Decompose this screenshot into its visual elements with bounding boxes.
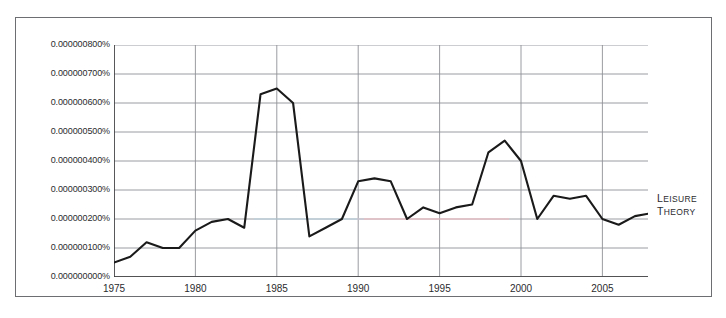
data-line-leisure-theory [114, 89, 648, 263]
x-axis-tick-label: 2000 [501, 283, 541, 294]
y-axis-tick-label: 0.000000300% [18, 184, 110, 194]
y-axis-tick-label: 0.000000500% [18, 126, 110, 136]
y-axis-tick-label: 0.000000000% [18, 271, 110, 281]
y-axis-tick-label: 0.000000400% [18, 155, 110, 165]
y-axis-tick-label: 0.000000200% [18, 213, 110, 223]
y-axis-tick-label: 0.000000800% [18, 39, 110, 49]
x-axis-tick-label: 1990 [338, 283, 378, 294]
series-label-leisure-theory: LEISURE THEORY [657, 193, 697, 218]
x-axis-tick-label: 1980 [175, 283, 215, 294]
x-axis-tick-label: 1985 [257, 283, 297, 294]
y-axis-tick-label: 0.000000700% [18, 68, 110, 78]
y-axis-tick-label: 0.000000600% [18, 97, 110, 107]
x-axis-tick-label: 1975 [94, 283, 134, 294]
x-axis-tick-label: 1995 [420, 283, 460, 294]
bottom-clipped-caption [14, 303, 714, 317]
y-axis-tick-labels: 0.000000800%0.000000700%0.000000600%0.00… [18, 0, 110, 318]
line-chart-svg [114, 45, 648, 277]
chart-page: 0.000000800%0.000000700%0.000000600%0.00… [0, 0, 726, 318]
series-label-line2: THEORY [657, 206, 697, 219]
x-axis-tick-label: 2005 [582, 283, 622, 294]
y-axis-tick-label: 0.000000100% [18, 242, 110, 252]
plot-area [114, 45, 648, 277]
